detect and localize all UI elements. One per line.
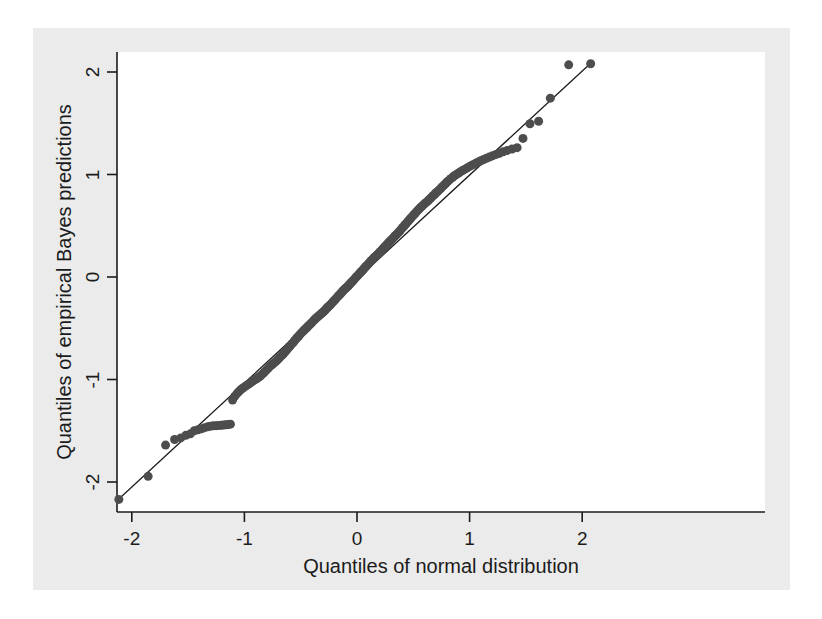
scatter-point — [525, 119, 534, 128]
y-axis-ticks — [107, 72, 117, 482]
axis-spines — [117, 52, 765, 512]
scatter-point — [546, 94, 555, 103]
scatter-point — [161, 441, 170, 450]
x-tick-label: -2 — [123, 529, 140, 548]
y-tick-label: -2 — [83, 474, 102, 491]
y-axis-title: Quantiles of empirical Bayes predictions — [54, 104, 74, 460]
y-tick-label: 0 — [83, 272, 102, 283]
y-tick-label: 2 — [83, 67, 102, 78]
scatter-point — [518, 134, 527, 143]
scatter-point — [513, 143, 522, 152]
x-tick-label: -1 — [236, 529, 253, 548]
scatter-point — [586, 59, 595, 68]
scatter-point — [564, 60, 573, 69]
x-axis-ticks — [132, 512, 582, 522]
qq-plot-screenshot: -2-1012 -2-1012 Quantiles of normal dist… — [0, 0, 822, 619]
y-tick-label: -1 — [83, 371, 102, 388]
y-tick-label: 1 — [83, 169, 102, 180]
x-tick-label: 0 — [352, 529, 363, 548]
x-axis-title: Quantiles of normal distribution — [303, 556, 579, 576]
scatter-point — [144, 472, 153, 481]
scatter-point — [114, 495, 123, 504]
scatter-point — [226, 420, 235, 429]
x-tick-label: 1 — [464, 529, 475, 548]
qq-plot-canvas — [0, 0, 822, 619]
scatter-point — [534, 117, 543, 126]
x-tick-label: 2 — [577, 529, 588, 548]
